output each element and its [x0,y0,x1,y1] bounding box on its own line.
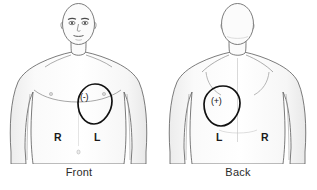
front-side-label-right: R [54,132,62,143]
front-body-group [10,4,147,165]
front-body-illustration [0,2,158,164]
front-navel [77,150,80,154]
front-pupil-left [71,22,73,24]
back-side-label-right: R [261,132,269,143]
front-pupil-right [84,22,86,24]
back-body-group [169,4,306,165]
back-body-illustration [159,2,317,164]
back-electrode-polarity-label: (+) [211,97,222,106]
front-view-caption: Front [0,166,158,178]
back-view-caption: Back [159,166,317,178]
electrode-placement-figure: (-) R L Front [0,0,317,190]
front-nipple-right [102,92,105,95]
front-electrode-polarity-label: (-) [80,93,88,102]
front-view-panel: (-) R L Front [0,0,158,190]
back-side-label-left: L [216,132,222,143]
front-side-label-left: L [94,132,100,143]
front-nipple-left [49,92,52,95]
back-view-panel: (+) L R Back [159,0,317,190]
